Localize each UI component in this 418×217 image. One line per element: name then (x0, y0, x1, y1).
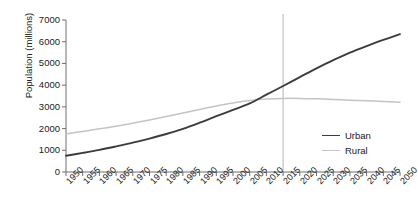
legend-label-urban: Urban (345, 131, 371, 141)
legend-swatch-rural (322, 150, 340, 151)
population-line-chart: Population (millions) 010002000300040005… (0, 0, 418, 217)
legend-item-rural: Rural (322, 143, 371, 158)
chart-legend: Urban Rural (322, 128, 371, 158)
legend-swatch-urban (322, 135, 340, 136)
y-axis-tick-label: 6000 (10, 36, 60, 47)
y-axis-tick-label: 5000 (10, 57, 60, 68)
y-axis-tick-label: 7000 (10, 14, 60, 25)
y-axis-tick-label: 2000 (10, 123, 60, 134)
legend-label-rural: Rural (345, 146, 368, 156)
legend-item-urban: Urban (322, 128, 371, 143)
y-axis-tick-label: 4000 (10, 79, 60, 90)
y-axis-tick-label: 1000 (10, 144, 60, 155)
y-axis-tick-label: 3000 (10, 101, 60, 112)
y-axis-tick-label: 0 (10, 166, 60, 177)
